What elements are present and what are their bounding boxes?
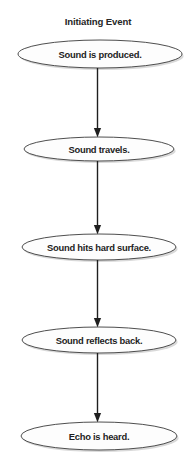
- connector-1-arrowhead: [94, 128, 101, 138]
- flow-node-2[interactable]: Sound travels.: [24, 137, 176, 163]
- node-3-label: Sound hits hard surface.: [47, 242, 151, 253]
- node-2-label: Sound travels.: [68, 144, 129, 155]
- node-5-label: Echo is heard.: [69, 431, 130, 442]
- diagram-title: Initiating Event: [65, 16, 132, 27]
- connector-3-arrowhead: [94, 318, 101, 328]
- flow-node-3[interactable]: Sound hits hard surface.: [22, 234, 178, 262]
- flow-connector-1: [94, 68, 101, 138]
- flow-node-5[interactable]: Echo is heard.: [21, 422, 179, 452]
- connector-2-arrowhead: [94, 225, 101, 235]
- flow-connector-4: [94, 353, 101, 423]
- flow-node-4[interactable]: Sound reflects back.: [22, 327, 178, 355]
- flow-node-1[interactable]: Sound is produced.: [18, 40, 184, 70]
- flowchart-diagram: Initiating Event Sound is produced. Soun…: [0, 0, 196, 461]
- node-1-label: Sound is produced.: [58, 49, 141, 60]
- flow-connector-3: [94, 260, 101, 328]
- connector-4-arrowhead: [94, 413, 101, 423]
- node-4-label: Sound reflects back.: [56, 335, 143, 346]
- flow-connector-2: [94, 161, 101, 235]
